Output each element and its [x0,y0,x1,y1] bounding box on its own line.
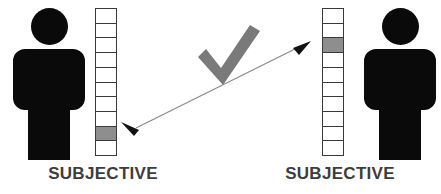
scale-cell[interactable] [323,127,343,142]
right-rating-scale[interactable] [322,8,344,156]
left-scale-label: SUBJECTIVE [13,164,193,184]
arrowhead-left-icon [121,122,139,136]
scale-cell[interactable] [96,9,116,24]
person-head-icon [382,8,419,45]
person-figure-left [13,8,85,160]
scale-cell[interactable] [96,83,116,98]
left-rating-scale[interactable] [95,8,117,156]
person-figure-right [364,8,436,160]
diagram-canvas: SUBJECTIVE SUBJECTIVE [0,0,441,194]
scale-cell[interactable] [96,68,116,83]
scale-cell[interactable] [323,83,343,98]
checkmark-icon [196,24,262,88]
scale-cell[interactable] [323,53,343,68]
scale-cell[interactable] [323,97,343,112]
scale-cell[interactable] [323,112,343,127]
scale-cell[interactable] [96,53,116,68]
scale-cell[interactable] [96,112,116,127]
scale-cell-selected[interactable] [96,127,116,142]
arrowhead-right-icon [293,41,311,55]
scale-cell[interactable] [323,9,343,24]
scale-cell[interactable] [96,38,116,53]
scale-cell[interactable] [96,24,116,39]
scale-cell-selected[interactable] [323,38,343,53]
scale-cell[interactable] [96,141,116,155]
scale-cell[interactable] [96,97,116,112]
right-scale-label: SUBJECTIVE [250,164,430,184]
person-head-icon [31,8,68,45]
scale-cell[interactable] [323,141,343,155]
scale-cell[interactable] [323,68,343,83]
person-torso-icon [13,49,85,110]
scale-cell[interactable] [323,24,343,39]
person-torso-icon [364,49,436,110]
